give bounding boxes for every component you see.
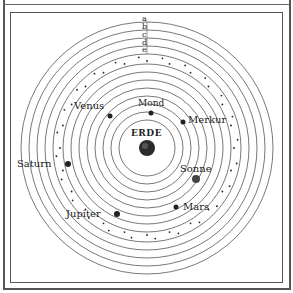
star-dot (103, 222, 105, 224)
star-dot (169, 231, 171, 233)
star-dot (233, 147, 235, 149)
star-dot (115, 62, 117, 64)
sonne-icon (192, 175, 200, 183)
star-dot (63, 109, 65, 111)
star-dot (146, 234, 148, 236)
star-dot (108, 230, 110, 232)
star-dot (199, 221, 201, 223)
star-dot (184, 64, 186, 66)
star-dot (131, 237, 133, 239)
label-merkur: Merkur (188, 115, 226, 125)
star-dot (62, 125, 64, 127)
star-dot (94, 73, 96, 75)
star-dot (230, 125, 232, 127)
star-dot (230, 170, 232, 172)
star-dot (55, 155, 57, 157)
saturn-icon (65, 161, 71, 167)
star-dot (204, 77, 206, 79)
star-dot (169, 63, 171, 65)
star-dot (124, 63, 126, 65)
jupiter-icon (114, 211, 120, 217)
star-dot (216, 205, 218, 207)
star-dot (236, 163, 238, 165)
star-dot (229, 185, 231, 187)
label-venus: Venus (74, 101, 104, 111)
merkur-icon (181, 120, 186, 125)
star-dot (178, 232, 180, 234)
label-jupiter: Jupiter (66, 209, 101, 219)
label-erde: ERDE (131, 129, 162, 138)
label-mars: Mars (183, 202, 209, 212)
star-dot (103, 72, 105, 74)
label-sonne: Sonne (180, 164, 212, 174)
venus-icon (108, 114, 113, 119)
star-dot (61, 179, 63, 181)
star-dot (71, 104, 73, 106)
star-dot (71, 191, 73, 193)
star-dot (220, 95, 222, 97)
star-dot (154, 238, 156, 240)
star-dot (146, 60, 148, 62)
star-dot (59, 147, 61, 149)
label-mond: Mond (138, 99, 164, 108)
star-dot (190, 72, 192, 74)
star-dot (162, 57, 164, 59)
star-dot (190, 222, 192, 224)
star-dot (221, 104, 223, 106)
star-dot (221, 191, 223, 193)
star-dot (62, 170, 64, 172)
mond-icon (149, 111, 154, 116)
ring-letter-e: e (142, 46, 147, 54)
label-saturn: Saturn (17, 159, 52, 169)
star-dot (231, 116, 233, 118)
star-dot (76, 89, 78, 91)
star-dot (138, 56, 140, 58)
mars-icon (174, 205, 179, 210)
star-dot (124, 231, 126, 233)
star-dot (56, 132, 58, 134)
star-dot (237, 139, 239, 141)
star-dot (208, 86, 210, 88)
star-dot (72, 200, 74, 202)
star-dot (85, 86, 87, 88)
